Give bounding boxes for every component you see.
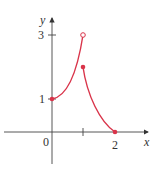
curve-piece-2 [83, 67, 115, 132]
curve-piece-1 [52, 35, 83, 99]
graph: y x 0 2 3 1 [0, 0, 162, 169]
filled-point-2-0 [113, 130, 118, 135]
y-tick-label-1: 1 [39, 92, 45, 106]
y-tick-label-3: 3 [38, 28, 44, 42]
open-point-1-3 [81, 33, 86, 38]
x-axis-label: x [143, 135, 150, 149]
y-axis-label: y [39, 13, 46, 27]
filled-point-1-2 [81, 65, 86, 70]
origin-label: 0 [43, 135, 49, 149]
x-tick-label-2: 2 [112, 138, 118, 152]
filled-point-0-1 [50, 97, 55, 102]
